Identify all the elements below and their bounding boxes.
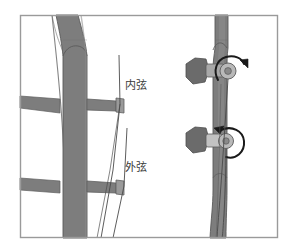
lower-peg-handle-icon xyxy=(186,127,209,153)
figure-root: 内弦 外弦 xyxy=(0,0,294,252)
inner-string-label: 内弦 xyxy=(125,79,147,92)
crossbar-lower-left-icon xyxy=(20,178,60,193)
erhu-neck-illustration xyxy=(0,0,294,252)
canvas-background xyxy=(0,0,294,252)
crossbar-upper-icon xyxy=(87,99,116,111)
crossbar-lower-icon xyxy=(87,181,116,193)
outer-string-label: 外弦 xyxy=(125,161,147,174)
upper-peg-hub-icon xyxy=(225,68,232,75)
upper-peg-handle-icon xyxy=(186,58,209,84)
